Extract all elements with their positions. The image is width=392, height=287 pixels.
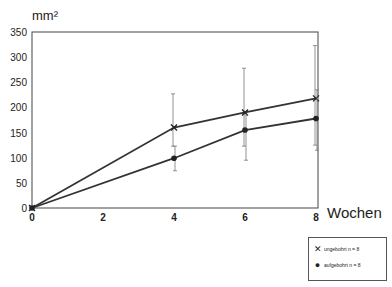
y-tick-label: 250 [10,77,27,88]
series-line [32,118,316,208]
x-tick-label: 8 [313,212,319,223]
x-tick-label: 4 [171,212,177,223]
x-axis-label: Wochen [327,204,382,221]
y-tick-label: 150 [10,128,27,139]
x-tick-label: 2 [100,212,106,223]
series-line [32,98,316,208]
y-tick-label: 50 [16,178,28,189]
y-tick-label: 350 [10,27,27,38]
y-tick-label: 200 [10,102,27,113]
y-tick-label: 100 [10,153,27,164]
circle-marker-icon: ● [313,260,322,270]
legend-item-aufgebohrt: ● aufgebohrt n = 8 [313,260,361,270]
y-axis-label: mm² [32,8,59,23]
y-tick-label: 0 [21,203,27,214]
x-marker-icon: ✕ [313,244,322,254]
legend-item-ungebohrt: ✕ ungebohrt n = 8 [313,244,359,254]
plot-frame [32,32,318,208]
x-tick-label: 6 [242,212,248,223]
line-chart: 05010015020025030035002468mm²Wochen [0,0,392,230]
legend: ✕ ungebohrt n = 8 ● aufgebohrt n = 8 [308,237,387,281]
x-tick-label: 0 [29,212,35,223]
y-tick-label: 300 [10,52,27,63]
